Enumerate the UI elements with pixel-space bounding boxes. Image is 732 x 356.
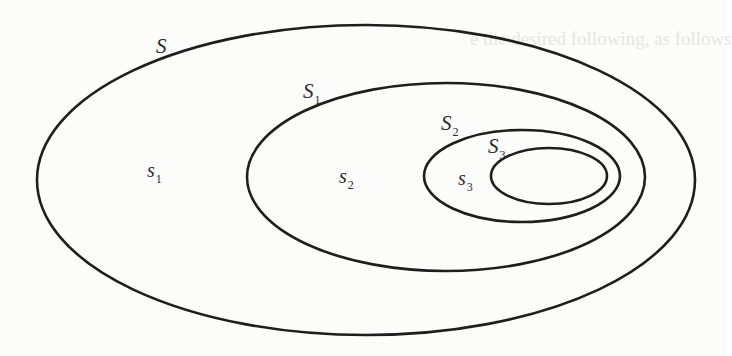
set-label-main: S	[441, 111, 452, 135]
region-label-main: s	[339, 165, 347, 187]
set-label-S: S	[156, 36, 168, 57]
region-label-main: s	[458, 167, 466, 189]
set-label-S3: S3	[488, 136, 506, 157]
set-label-subscript: 2	[453, 125, 459, 139]
set-label-subscript: 1	[315, 93, 321, 107]
region-label-s3: s3	[458, 168, 473, 188]
region-label-subscript: 3	[467, 180, 473, 194]
region-label-main: s	[147, 159, 155, 181]
set-label-main: S	[488, 134, 499, 158]
set-label-S1: S1	[303, 81, 321, 102]
region-label-subscript: 1	[156, 172, 162, 186]
set-label-subscript: 3	[500, 148, 506, 162]
set-label-S2: S2	[441, 113, 459, 134]
region-label-s2: s2	[339, 166, 354, 186]
set-S2-boundary	[424, 130, 620, 222]
set-label-main: S	[156, 34, 167, 58]
region-label-s1: s1	[147, 160, 162, 180]
set-label-main: S	[303, 79, 314, 103]
region-label-subscript: 2	[348, 178, 354, 192]
set-S3-boundary	[491, 148, 607, 204]
set-S-boundary	[37, 25, 695, 335]
